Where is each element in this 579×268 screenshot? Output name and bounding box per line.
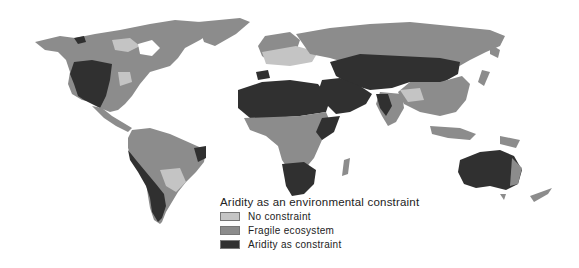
swatch-fragile-ecosystem xyxy=(220,226,240,235)
legend-item-fragile-ecosystem: Fragile ecosystem xyxy=(220,224,419,237)
region-tasmania xyxy=(500,194,506,200)
region-north-america xyxy=(35,20,215,112)
region-japan xyxy=(478,70,490,86)
legend-item-aridity-constraint: Aridity as constraint xyxy=(220,238,419,251)
legend-label: Fragile ecosystem xyxy=(248,225,334,236)
map-legend: Aridity as an environmental constraint N… xyxy=(220,196,419,252)
region-southern-africa-arid xyxy=(282,162,316,196)
swatch-aridity-constraint xyxy=(220,240,240,249)
region-greenland xyxy=(198,18,250,46)
region-sahara-arid xyxy=(238,80,330,118)
region-madagascar xyxy=(342,158,350,176)
region-spain-arid xyxy=(256,70,270,80)
region-australia-east xyxy=(510,158,522,186)
legend-item-no-constraint: No constraint xyxy=(220,210,419,223)
legend-label: Aridity as constraint xyxy=(248,239,342,250)
legend-label: No constraint xyxy=(248,211,311,222)
region-indonesia xyxy=(430,126,476,140)
swatch-no-constraint xyxy=(220,212,240,221)
region-central-africa xyxy=(244,112,332,172)
region-new-guinea xyxy=(500,136,520,148)
legend-title: Aridity as an environmental constraint xyxy=(220,196,419,208)
region-new-zealand xyxy=(530,188,552,202)
